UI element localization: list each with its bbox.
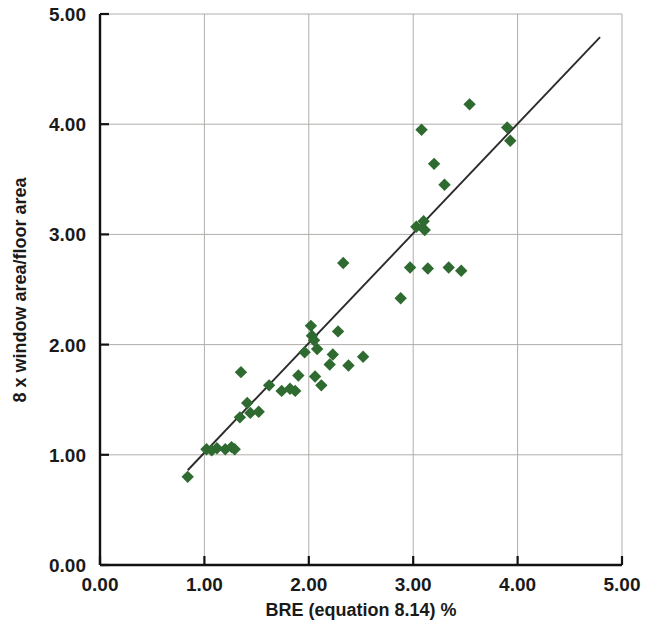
x-axis-title: BRE (equation 8.14) % — [265, 600, 456, 620]
x-tick-label: 4.00 — [499, 574, 536, 595]
x-tick-label: 3.00 — [395, 574, 432, 595]
y-tick-label: 3.00 — [49, 224, 86, 245]
x-tick-label: 5.00 — [604, 574, 641, 595]
y-tick-label: 1.00 — [49, 445, 86, 466]
x-tick-label: 1.00 — [186, 574, 223, 595]
y-axis-title: 8 x window area/floor area — [10, 176, 30, 402]
y-tick-label: 0.00 — [49, 555, 86, 576]
y-tick-label: 4.00 — [49, 114, 86, 135]
x-tick-label: 0.00 — [82, 574, 119, 595]
x-tick-label: 2.00 — [290, 574, 327, 595]
y-tick-label: 5.00 — [49, 4, 86, 25]
y-tick-label: 2.00 — [49, 335, 86, 356]
chart-page: 0.001.002.003.004.005.00 0.001.002.003.0… — [0, 0, 646, 633]
scatter-chart: 0.001.002.003.004.005.00 0.001.002.003.0… — [0, 0, 646, 633]
